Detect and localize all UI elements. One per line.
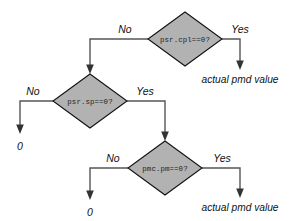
connector-d2-no <box>16 101 53 134</box>
connector-d2-yes <box>127 101 169 141</box>
branch-label-d3-yes: Yes <box>213 152 231 164</box>
node-d2-label: psr.sp==0? <box>67 98 112 106</box>
terminal-zero-left: 0 <box>17 140 23 152</box>
branch-label-d3-no: No <box>106 152 120 164</box>
flowchart-svg: psr.cpl==0? No Yes actual pmd value psr.… <box>0 0 298 221</box>
branch-label-d1-yes: Yes <box>231 23 249 35</box>
node-d3-label: pmc.pm==0? <box>142 165 187 173</box>
flowchart-canvas: psr.cpl==0? No Yes actual pmd value psr.… <box>0 0 298 221</box>
connector-d3-yes <box>202 168 244 198</box>
branch-label-d2-no: No <box>26 85 40 97</box>
connector-d1-yes <box>222 39 244 70</box>
branch-label-d1-no: No <box>118 23 132 35</box>
terminal-zero-bottom: 0 <box>87 206 93 218</box>
terminal-actual-pmd-value-top: actual pmd value <box>201 74 278 85</box>
connector-d1-no <box>86 39 148 74</box>
branch-label-d2-yes: Yes <box>136 85 154 97</box>
terminal-actual-pmd-value-bottom: actual pmd value <box>201 202 278 213</box>
connector-d3-no <box>86 168 128 200</box>
node-d1-label: psr.cpl==0? <box>160 36 210 44</box>
